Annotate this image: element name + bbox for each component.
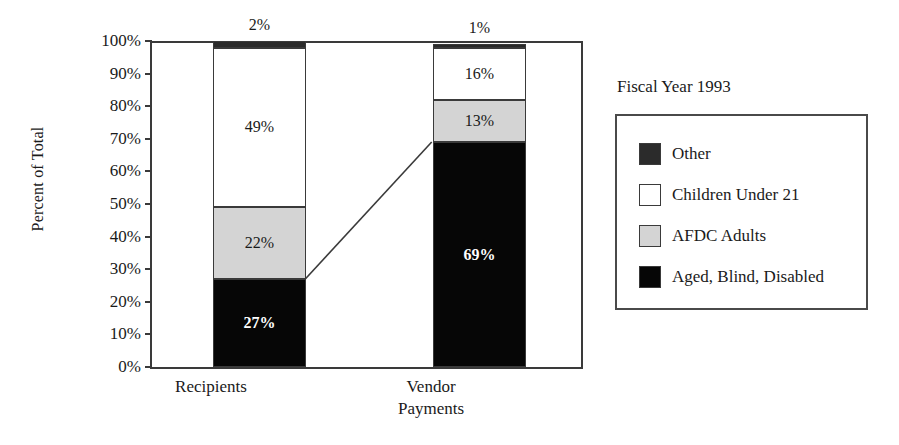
y-tick-label: 100%: [101, 30, 141, 51]
plot-right-rule: [581, 41, 583, 367]
legend-item-list: OtherChildren Under 21AFDC AdultsAged, B…: [639, 133, 858, 297]
y-tick-label: 50%: [110, 193, 141, 214]
legend-swatch-icon: [639, 266, 661, 288]
bar-segment-children-under-21: 16%: [433, 48, 526, 100]
bar-vendor-payments: 69%13%16%1%: [433, 41, 526, 367]
x-axis-label-line1: Vendor: [351, 376, 511, 398]
y-axis-title: Percent of Total: [29, 94, 47, 264]
y-tick-mark: [145, 268, 152, 270]
legend-item: Other: [639, 133, 858, 174]
plot-area: 100%90%80%70%60%50%40%30%20%10%0% 27%22%…: [150, 41, 583, 369]
legend-item-label: Aged, Blind, Disabled: [672, 267, 824, 287]
y-tick-mark: [145, 138, 152, 140]
x-axis-label-line1: Recipients: [131, 376, 291, 398]
bar-segment-other: 1%: [433, 44, 526, 47]
legend-item: Aged, Blind, Disabled: [639, 256, 858, 297]
legend-swatch-icon: [639, 225, 661, 247]
y-tick-label: 70%: [110, 128, 141, 149]
legend-item-label: Children Under 21: [672, 185, 799, 205]
legend-item-label: Other: [672, 144, 711, 164]
x-axis-label-recipients: Recipients: [131, 376, 291, 398]
y-tick-mark: [145, 333, 152, 335]
y-tick-mark: [145, 105, 152, 107]
y-tick-mark: [145, 40, 152, 42]
y-tick-mark: [145, 203, 152, 205]
stacked-bar-chart-figure: Percent of Total 100%90%80%70%60%50%40%3…: [0, 0, 899, 445]
bar-segment-afdc-adults: 22%: [213, 207, 306, 279]
y-tick-mark: [145, 73, 152, 75]
segment-value-label: 16%: [465, 66, 494, 82]
legend-swatch-icon: [639, 184, 661, 206]
y-tick-label: 60%: [110, 160, 141, 181]
legend-item: Children Under 21: [639, 174, 858, 215]
y-tick-label: 80%: [110, 95, 141, 116]
legend-title: Fiscal Year 1993: [617, 77, 731, 97]
bar-segment-other: 2%: [213, 41, 306, 48]
bar-segment-afdc-adults: 13%: [433, 100, 526, 142]
legend-swatch-icon: [639, 143, 661, 165]
y-tick-mark: [145, 301, 152, 303]
segment-value-label: 2%: [214, 17, 305, 33]
y-tick-label: 90%: [110, 63, 141, 84]
segment-value-label: 27%: [244, 315, 276, 331]
bar-segment-aged-blind-disabled: 27%: [213, 279, 306, 367]
y-tick-label: 10%: [110, 323, 141, 344]
y-tick-mark: [145, 366, 152, 368]
x-axis-label-vendor-payments: Vendor Payments: [351, 376, 511, 420]
legend-item-label: AFDC Adults: [672, 226, 766, 246]
y-tick-mark: [145, 170, 152, 172]
segment-value-label: 49%: [245, 119, 274, 135]
bar-recipients: 27%22%49%2%: [213, 41, 306, 367]
segment-value-label: 69%: [464, 247, 496, 263]
y-tick-label: 20%: [110, 291, 141, 312]
bar-segment-aged-blind-disabled: 69%: [433, 142, 526, 367]
legend-item: AFDC Adults: [639, 215, 858, 256]
x-axis-label-line2: Payments: [351, 398, 511, 420]
segment-value-label: 22%: [245, 235, 274, 251]
legend-box: OtherChildren Under 21AFDC AdultsAged, B…: [615, 114, 868, 310]
y-tick-label: 40%: [110, 226, 141, 247]
bar-segment-children-under-21: 49%: [213, 48, 306, 208]
segment-value-label: 13%: [465, 113, 494, 129]
segment-value-label: 1%: [434, 20, 525, 36]
y-tick-mark: [145, 236, 152, 238]
y-tick-label: 0%: [118, 356, 141, 377]
y-tick-label: 30%: [110, 258, 141, 279]
